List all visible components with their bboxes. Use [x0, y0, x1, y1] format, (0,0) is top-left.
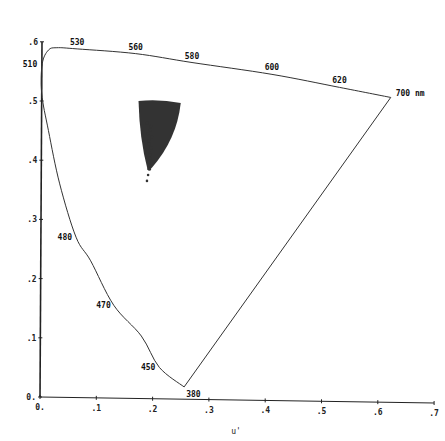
x-tick-label: .1 [91, 404, 101, 413]
wavelength-label: 470 [96, 301, 111, 310]
wavelength-label: 530 [70, 38, 85, 47]
wavelength-label: 380 [186, 390, 201, 399]
wavelength-label: 700 nm [396, 89, 425, 98]
point-cloud [139, 100, 181, 170]
y-tick-label: 0. [26, 393, 36, 402]
y-tick-label: .5 [28, 97, 38, 106]
data-point [147, 168, 150, 171]
wavelength-label: 600 [265, 63, 280, 72]
y-tick-label: .6 [28, 38, 38, 47]
wavelength-label: 560 [128, 43, 143, 52]
x-tick-label: .4 [260, 406, 270, 415]
wavelength-label: 510 [23, 60, 38, 69]
y-tick-label: .1 [27, 334, 37, 343]
chromaticity-chart: 0..1.2.3.4.5.6.70..1.2.3.4.5.6 380450470… [0, 0, 445, 441]
wavelength-label: 480 [58, 233, 73, 242]
x-tick-label: .7 [429, 409, 439, 418]
x-tick-label: .5 [317, 407, 327, 416]
x-axis-title: u' [231, 427, 241, 436]
wavelength-label: 450 [141, 363, 156, 372]
data-point [147, 174, 150, 177]
x-tick-label: .3 [204, 406, 214, 415]
x-tick-label: .6 [373, 408, 383, 417]
y-tick-label: .3 [27, 215, 37, 224]
wavelength-label: 580 [185, 52, 200, 61]
y-tick-label: .4 [28, 156, 38, 165]
x-tick-label: .2 [148, 405, 158, 414]
data-cluster [139, 100, 181, 182]
x-tick-label: 0. [35, 403, 45, 412]
axes [40, 42, 434, 403]
data-point [146, 180, 149, 183]
wavelength-label: 620 [332, 76, 347, 85]
spectral-locus [41, 48, 391, 387]
y-tick-label: .2 [27, 275, 37, 284]
